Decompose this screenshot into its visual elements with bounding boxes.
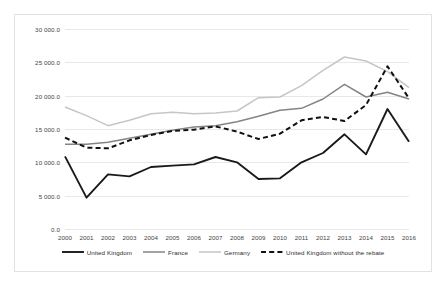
x-axis-tick-label: 2007 [208,234,222,241]
y-axis-tick-label: 25 000.0 [35,59,60,66]
y-axis-tick-label: 30 000.0 [35,26,60,33]
x-axis-tick-label: 2000 [58,234,72,241]
plot-area: 0.05 000.010 000.015 000.020 000.025 000… [65,29,409,229]
x-axis-tick-label: 2003 [122,234,136,241]
legend-item[interactable]: Germany [199,248,250,256]
legend-item[interactable]: France [143,248,188,256]
legend-item-label: France [168,249,188,256]
y-axis-tick-label: 10 000.0 [35,159,60,166]
x-axis-tick-label: 2002 [101,234,115,241]
x-axis-tick-label: 2006 [187,234,201,241]
legend-swatch-icon [199,248,221,256]
y-axis-tick-label: 0.0 [51,226,60,233]
x-axis-tick-label: 2012 [316,234,330,241]
x-axis-tick-label: 2013 [337,234,351,241]
x-axis-tick-label: 2015 [380,234,394,241]
x-axis-tick-label: 2004 [144,234,158,241]
gridline [65,229,409,230]
legend-item[interactable]: United Kingdom [62,248,132,256]
legend-item[interactable]: United Kingdom without the rebate [261,248,384,256]
x-axis-tick-label: 2009 [251,234,265,241]
x-axis-tick-label: 2010 [273,234,287,241]
y-axis-tick-label: 5 000.0 [39,192,60,199]
legend-swatch-icon [62,248,84,256]
x-axis-tick-label: 2005 [165,234,179,241]
legend-swatch-icon [143,248,165,256]
x-axis-tick-label: 2001 [79,234,93,241]
legend-swatch-icon [261,248,283,256]
series-line [65,66,409,148]
legend-item-label: United Kingdom without the rebate [286,249,384,256]
x-axis-tick-label: 2011 [295,234,309,241]
x-axis-tick-label: 2016 [402,234,416,241]
series-line [65,84,409,144]
chart-legend: United KingdomFranceGermanyUnited Kingdo… [15,248,431,256]
series-lines [65,29,409,229]
x-axis-tick-label: 2008 [230,234,244,241]
legend-item-label: United Kingdom [87,249,132,256]
y-axis-tick-label: 15 000.0 [35,126,60,133]
y-axis-tick-label: 20 000.0 [35,92,60,99]
line-chart-figure: 0.05 000.010 000.015 000.020 000.025 000… [14,14,432,272]
legend-item-label: Germany [224,249,250,256]
x-axis-tick-label: 2014 [359,234,373,241]
